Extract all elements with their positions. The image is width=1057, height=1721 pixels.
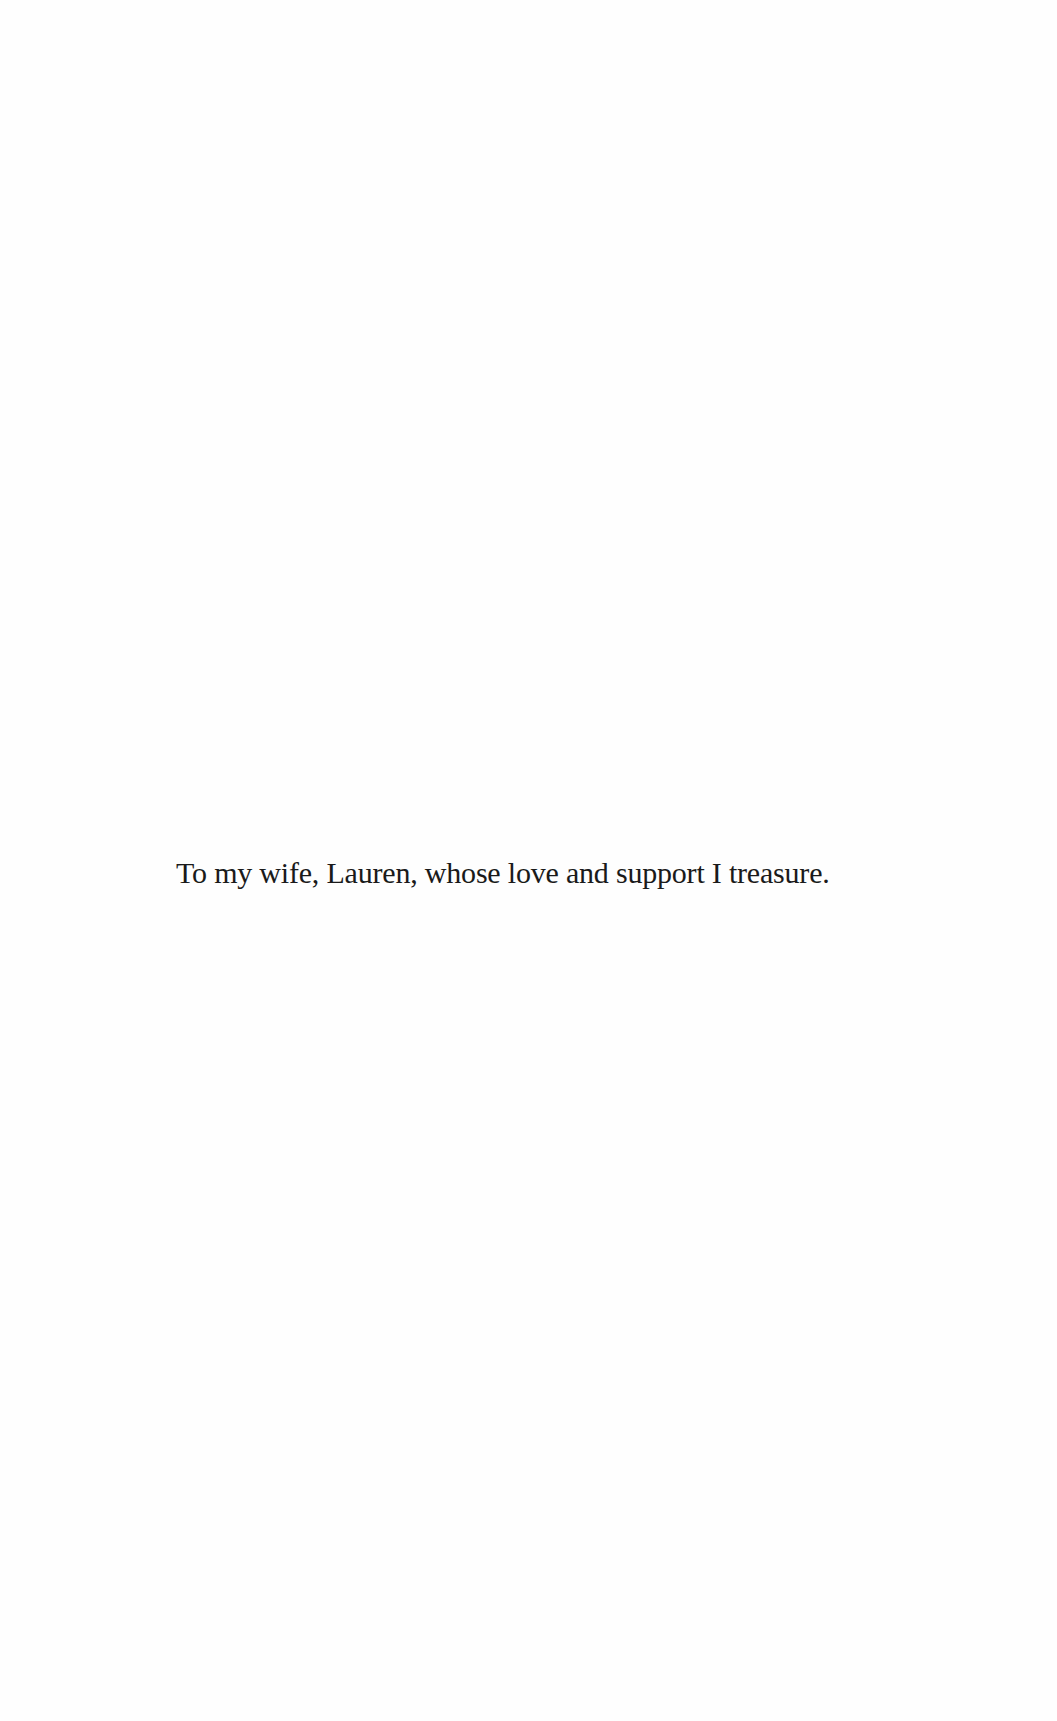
dedication-text: To my wife, Lauren, whose love and suppo… — [176, 853, 876, 893]
book-page: To my wife, Lauren, whose love and suppo… — [0, 0, 1057, 1721]
